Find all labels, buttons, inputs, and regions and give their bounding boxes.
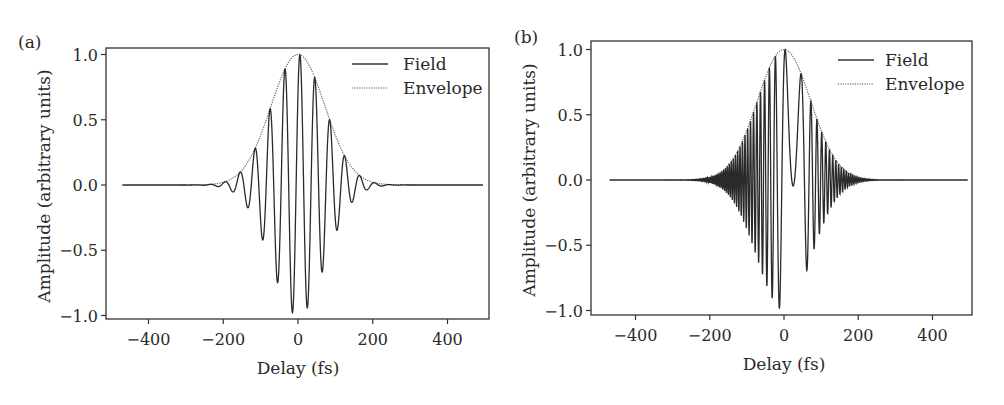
x-tick-label: 400	[917, 326, 948, 345]
panel-label: (b)	[514, 27, 538, 47]
y-axis-label: Amplitude (arbitrary units)	[519, 63, 539, 297]
panel-b: (b) Amplitude (arbitrary units) Delay (f…	[0, 0, 502, 405]
y-tick-label: 1.0	[558, 41, 583, 60]
x-tick-label: −400	[614, 326, 658, 345]
x-tick-label: 0	[779, 326, 789, 345]
chart-b: (b) Amplitude (arbitrary units) Delay (f…	[0, 0, 1004, 405]
x-tick-label: 200	[843, 326, 874, 345]
y-tick-label: −0.5	[544, 236, 583, 255]
y-tick-label: 0.5	[558, 106, 583, 125]
x-tick-label: −200	[688, 326, 732, 345]
y-tick-label: −1.0	[544, 302, 583, 321]
x-axis-label: Delay (fs)	[743, 354, 826, 374]
legend-envelope-label: Envelope	[885, 74, 965, 94]
y-tick-label: 0.0	[558, 171, 583, 190]
legend-field-label: Field	[885, 50, 929, 70]
legend: Field Envelope	[838, 50, 965, 94]
